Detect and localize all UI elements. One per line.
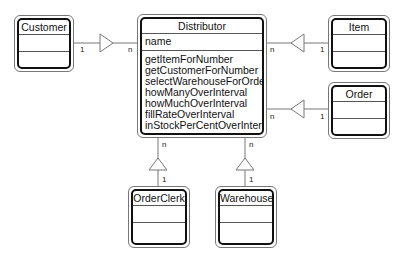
class-orderclerk[interactable]: OrderClerk — [128, 186, 190, 248]
orderclerk-association-arrow-icon — [149, 158, 167, 170]
multiplicity-distributor-end: n — [270, 46, 274, 54]
order-association-arrow-icon — [291, 100, 304, 118]
item-association-arrow-icon — [291, 34, 304, 52]
multiplicity-distributor-end: n — [128, 46, 132, 54]
operation: inStockPerCentOverInterval — [142, 120, 262, 131]
class-warehouse[interactable]: Warehouse — [215, 186, 277, 248]
class-name: OrderClerk — [133, 191, 185, 206]
multiplicity-distributor-end: n — [162, 141, 166, 149]
attributes-section — [19, 35, 69, 52]
attributes-section — [133, 206, 185, 223]
class-distributor[interactable]: Distributor name getItemForNumber getCus… — [137, 14, 267, 138]
attributes-section — [333, 35, 385, 52]
class-item[interactable]: Item — [328, 15, 390, 72]
class-name: Customer — [19, 20, 69, 35]
class-order[interactable]: Order — [328, 82, 390, 139]
attributes-section — [220, 206, 272, 223]
class-name: Distributor — [142, 19, 262, 34]
multiplicity-customer-end: 1 — [80, 46, 84, 54]
multiplicity-distributor-end: n — [270, 113, 274, 121]
customer-association-arrow-icon — [100, 34, 113, 52]
warehouse-association-arrow-icon — [236, 158, 254, 170]
operations-section: getItemForNumber getCustomerForNumber se… — [142, 51, 262, 131]
attributes-section: name — [142, 34, 262, 51]
attribute: name — [142, 36, 262, 47]
multiplicity-distributor-end: n — [249, 141, 253, 149]
multiplicity-order-end: 1 — [320, 113, 324, 121]
multiplicity-item-end: 1 — [320, 46, 324, 54]
class-name: Warehouse — [220, 191, 272, 206]
multiplicity-orderclerk-end: 1 — [162, 176, 166, 184]
class-customer[interactable]: Customer — [14, 15, 74, 72]
class-name: Item — [333, 20, 385, 35]
multiplicity-warehouse-end: 1 — [249, 176, 253, 184]
attributes-section — [333, 102, 385, 119]
class-name: Order — [333, 87, 385, 102]
